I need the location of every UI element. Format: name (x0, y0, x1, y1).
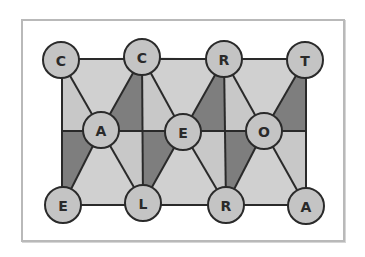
letter-grid-diagram: C C R T A E O E (0, 0, 365, 257)
node-label: E (58, 198, 68, 214)
node-middle-3: O (246, 113, 282, 149)
node-bottom-3: R (208, 187, 244, 223)
node-label: O (258, 124, 270, 140)
node-label: C (137, 50, 147, 66)
diagram-canvas: C C R T A E O E (0, 0, 365, 257)
node-label: R (221, 198, 232, 214)
node-top-1: C (43, 42, 79, 78)
node-label: A (301, 199, 312, 215)
node-bottom-1: E (45, 187, 81, 223)
node-top-2: C (124, 39, 160, 75)
node-label: L (139, 196, 148, 212)
node-label: E (178, 125, 188, 141)
node-middle-2: E (165, 114, 201, 150)
node-label: R (219, 52, 230, 68)
node-label: C (56, 53, 66, 69)
node-bottom-4: A (288, 188, 324, 224)
node-label: A (96, 123, 107, 139)
node-middle-1: A (83, 112, 119, 148)
node-bottom-2: L (125, 185, 161, 221)
node-label: T (300, 53, 310, 69)
node-top-3: R (206, 41, 242, 77)
node-top-4: T (287, 42, 323, 78)
